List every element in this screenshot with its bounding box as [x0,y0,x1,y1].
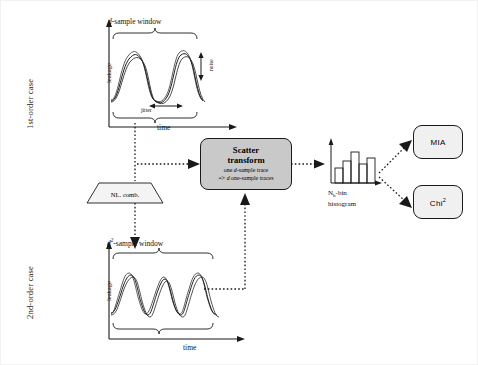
nl-comb-label: NL. comb. [111,191,139,198]
arrowhead-chi2 [399,196,412,208]
arrowhead-to-second-order [130,237,140,249]
scatter-transform-title: Scatter transform [227,145,264,165]
output-box-chi2[interactable]: Chi2 [413,185,463,219]
scatter-transform-title-line1: Scatter [233,145,259,155]
histogram-label-line2: histogram [328,200,356,208]
scatter-transform-box[interactable]: Scatter transform one d-sample trace => … [200,138,292,190]
arrowhead-scatter-bottom [240,193,250,205]
output-label-chi2: Chi2 [430,197,446,208]
output-label-mia: MIA [430,138,445,147]
histogram-chart [325,137,387,189]
output-label-chi2-text: Chi [430,198,443,207]
scatter-transform-title-line2: transform [227,155,264,165]
histogram-bars [335,152,375,183]
scatter-sub2-pre: => [219,175,227,181]
output-box-mia[interactable]: MIA [413,125,463,159]
scatter-sub2-post: one-sample traces [230,175,274,181]
arrowhead-scatter-left [188,159,200,169]
scatter-sub1-pre: one [224,167,234,173]
histogram-label: Nb-bin histogram [328,189,356,209]
scatter-transform-subtitle: one d-sample trace => d one-sample trace… [219,167,274,182]
histogram-label-bin: -bin [336,189,347,197]
output-label-chi2-sup: 2 [443,197,446,203]
scatter-sub1-post: -sample trace [237,167,269,173]
arrowhead-histogram [314,160,325,169]
figure-canvas: 1st-order case d-sample window leakage t… [0,0,478,365]
